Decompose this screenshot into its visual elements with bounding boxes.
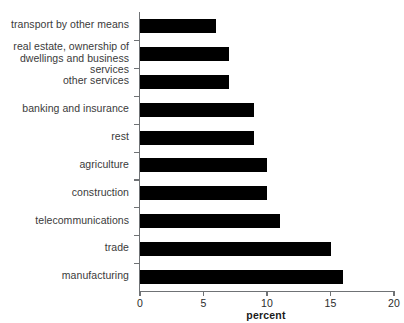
value-axis-tick-label: 5: [201, 297, 207, 309]
bar: [140, 186, 267, 200]
category-label: telecommunications: [35, 215, 129, 227]
bar-chart: transport by other meansreal estate, own…: [0, 0, 404, 323]
category-label: other services: [63, 75, 129, 87]
bar: [140, 131, 254, 145]
bar: [140, 158, 267, 172]
bar: [140, 270, 343, 284]
category-axis-tick: [134, 96, 139, 97]
category-axis-tick: [134, 124, 139, 125]
category-axis-tick: [134, 235, 139, 236]
category-label: real estate, ownership of dwellings and …: [0, 41, 129, 76]
category-axis-tick: [134, 179, 139, 180]
value-axis-tick-label: 20: [388, 297, 400, 309]
bar: [140, 19, 216, 33]
category-label: construction: [72, 187, 129, 199]
category-label: transport by other means: [11, 19, 129, 31]
value-axis-tick: [266, 291, 267, 296]
value-axis-tick-label: 10: [261, 297, 273, 309]
value-axis-tick-label: 0: [137, 297, 143, 309]
bar: [140, 242, 331, 256]
category-axis-tick: [134, 152, 139, 153]
category-label: agriculture: [79, 159, 129, 171]
value-axis-tick: [203, 291, 204, 296]
value-axis-tick: [393, 291, 394, 296]
category-label: rest: [111, 131, 129, 143]
x-axis-title: percent: [0, 309, 404, 321]
category-axis-tick: [134, 263, 139, 264]
bar: [140, 47, 229, 61]
category-axis-tick: [134, 68, 139, 69]
category-label: banking and insurance: [22, 103, 129, 115]
category-label: trade: [105, 242, 129, 254]
category-axis-tick: [134, 40, 139, 41]
category-axis-tick: [134, 207, 139, 208]
bar: [140, 214, 280, 228]
category-label: manufacturing: [62, 270, 129, 282]
bar: [140, 103, 254, 117]
value-axis-tick: [139, 291, 140, 296]
bar: [140, 75, 229, 89]
value-axis-tick-label: 15: [325, 297, 337, 309]
x-axis-title-text: percent: [246, 309, 285, 321]
value-axis-tick: [330, 291, 331, 296]
